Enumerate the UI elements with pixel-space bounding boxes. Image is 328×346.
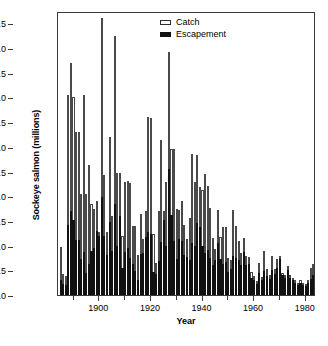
x-tick-major <box>305 296 306 301</box>
y-tick-label: 0.5 <box>0 266 6 276</box>
chart-figure: Sockeye salmon (millions) 0.00.51.01.52.… <box>0 0 328 346</box>
y-tick-label: 1.0 <box>0 242 6 252</box>
legend-item-escapement: Escapement <box>160 28 226 40</box>
chart-legend: Catch Escapement <box>160 16 226 40</box>
y-tick <box>8 148 13 149</box>
y-tick-label: 5.5 <box>0 19 6 29</box>
legend-label-catch: Catch <box>176 16 200 28</box>
bar-1983 <box>312 264 314 295</box>
y-tick-label: 4.5 <box>0 69 6 79</box>
x-tick-major <box>98 296 99 301</box>
x-tick-major <box>202 296 203 301</box>
x-tick-label: 1940 <box>182 303 222 313</box>
y-tick-label: 3.0 <box>0 143 6 153</box>
y-tick <box>8 296 13 297</box>
x-tick-minor <box>124 296 125 300</box>
x-tick-minor <box>279 296 280 300</box>
y-tick <box>8 49 13 50</box>
y-tick <box>8 197 13 198</box>
x-tick-label: 1900 <box>78 303 118 313</box>
y-tick <box>8 222 13 223</box>
y-tick-label: 1.5 <box>0 217 6 227</box>
y-tick <box>8 24 13 25</box>
y-tick <box>8 98 13 99</box>
x-tick-major <box>253 296 254 301</box>
x-tick-major <box>150 296 151 301</box>
y-tick-label: 2.5 <box>0 168 6 178</box>
x-tick-label: 1960 <box>233 303 273 313</box>
x-tick-minor <box>176 296 177 300</box>
x-tick-label: 1920 <box>130 303 170 313</box>
y-tick <box>8 247 13 248</box>
y-tick <box>8 173 13 174</box>
x-tick-minor <box>73 296 74 300</box>
x-axis-title: Year <box>57 316 315 326</box>
y-tick <box>8 123 13 124</box>
legend-item-catch: Catch <box>160 16 226 28</box>
legend-label-escapement: Escapement <box>176 28 226 40</box>
y-tick <box>8 271 13 272</box>
legend-swatch-escapement-icon <box>160 32 171 37</box>
plot-area <box>57 12 315 296</box>
y-tick-label: 0.0 <box>0 291 6 301</box>
y-tick-label: 3.5 <box>0 118 6 128</box>
x-tick-minor <box>227 296 228 300</box>
y-tick-label: 4.0 <box>0 93 6 103</box>
x-tick-label: 1980 <box>285 303 325 313</box>
y-tick-label: 2.0 <box>0 192 6 202</box>
bar-series-container <box>58 13 314 295</box>
legend-swatch-catch-icon <box>160 20 171 25</box>
y-axis-title: Sockeye salmon (millions) <box>31 65 41 265</box>
y-tick <box>8 74 13 75</box>
bar-segment-escapement <box>312 275 314 295</box>
y-tick-label: 5.0 <box>0 44 6 54</box>
